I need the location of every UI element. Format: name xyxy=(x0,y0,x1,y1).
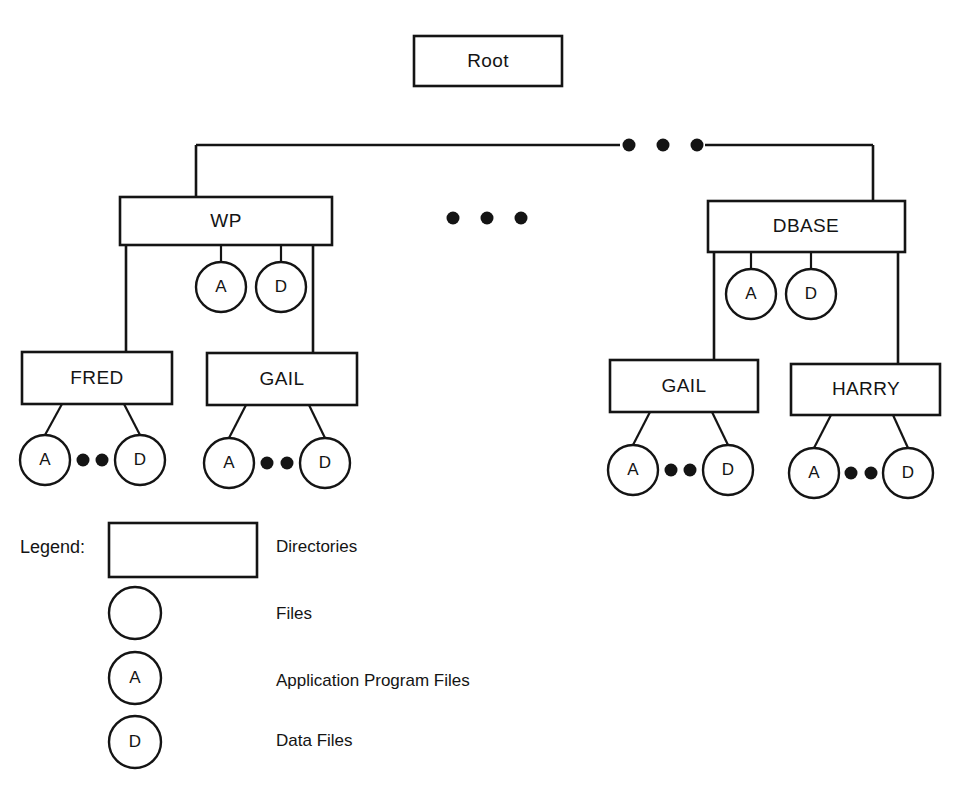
wp-file-a-label: A xyxy=(215,277,227,296)
wp-file-d-label: D xyxy=(275,277,287,296)
gail-dbase-stem-d xyxy=(712,412,728,445)
legend-data-glyph: D xyxy=(129,732,141,751)
gail-wp-ellipsis-dot-1 xyxy=(261,457,274,470)
fred-stem-a xyxy=(45,404,62,435)
wp-file-a[interactable]: A xyxy=(196,262,246,312)
bus-ellipsis-dot-1 xyxy=(623,139,636,152)
harry-file-a-label: A xyxy=(808,463,820,482)
legend-title: Legend: xyxy=(20,537,85,557)
level1-ellipsis-dot-3 xyxy=(515,212,528,225)
gail-wp-file-d[interactable]: D xyxy=(300,438,350,488)
wp-label: WP xyxy=(210,210,241,231)
legend-item-application-files: A Application Program Files xyxy=(109,652,470,704)
fred-file-d[interactable]: D xyxy=(115,435,165,485)
wp-file-d[interactable]: D xyxy=(256,262,306,312)
gail-wp-stem-d xyxy=(309,405,325,438)
gail-dbase-label: GAIL xyxy=(662,375,707,396)
gail-wp-file-a[interactable]: A xyxy=(204,438,254,488)
gail-wp-stem-a xyxy=(229,405,246,438)
fred-ellipsis-dot-1 xyxy=(77,454,90,467)
legend-files-label: Files xyxy=(276,604,312,623)
fred-files-ellipsis xyxy=(77,454,109,467)
node-gail-dbase[interactable]: GAIL xyxy=(610,360,758,412)
node-fred[interactable]: FRED xyxy=(22,352,172,404)
gail-wp-file-stems xyxy=(229,405,325,438)
legend-item-data-files: D Data Files xyxy=(109,716,353,768)
harry-ellipsis-dot-1 xyxy=(845,467,858,480)
node-gail-wp[interactable]: GAIL xyxy=(207,353,357,405)
top-connector-bus xyxy=(196,139,873,202)
fred-label: FRED xyxy=(70,367,123,388)
gail-dbase-file-a-label: A xyxy=(627,460,639,479)
legend-item-files: Files xyxy=(109,587,312,639)
harry-file-d-label: D xyxy=(902,463,914,482)
gail-wp-files-ellipsis xyxy=(261,457,294,470)
legend-directories-label: Directories xyxy=(276,537,357,556)
gail-dbase-file-a[interactable]: A xyxy=(608,445,658,495)
harry-file-stems xyxy=(814,415,908,448)
legend: Legend: Directories Files A Application … xyxy=(20,523,470,768)
node-root[interactable]: Root xyxy=(414,36,562,86)
fred-file-stems xyxy=(45,404,140,435)
dbase-file-d-label: D xyxy=(805,284,817,303)
root-label: Root xyxy=(467,50,509,71)
level1-ellipsis-dot-1 xyxy=(447,212,460,225)
legend-data-label: Data Files xyxy=(276,731,353,750)
fred-file-a-label: A xyxy=(39,450,51,469)
gail-wp-file-a-label: A xyxy=(223,453,235,472)
harry-stem-a xyxy=(814,415,831,448)
legend-directory-swatch xyxy=(109,523,257,577)
fred-file-d-label: D xyxy=(134,450,146,469)
legend-application-label: Application Program Files xyxy=(276,671,470,690)
fred-file-a[interactable]: A xyxy=(20,435,70,485)
gail-dbase-stem-a xyxy=(633,412,650,445)
diagram-canvas: Root WP xyxy=(0,0,961,799)
node-harry[interactable]: HARRY xyxy=(791,364,940,415)
gail-dbase-ellipsis-dot-2 xyxy=(684,464,697,477)
node-dbase[interactable]: DBASE xyxy=(708,201,905,252)
legend-application-glyph: A xyxy=(129,668,141,687)
dbase-file-stems xyxy=(751,252,811,269)
dbase-label: DBASE xyxy=(773,215,839,236)
legend-file-swatch xyxy=(109,587,161,639)
bus-ellipsis-dot-2 xyxy=(657,139,670,152)
gail-dbase-ellipsis-dot-1 xyxy=(665,464,678,477)
harry-file-d[interactable]: D xyxy=(883,448,933,498)
level1-ellipsis-dot-2 xyxy=(481,212,494,225)
bus-ellipsis-dot-3 xyxy=(691,139,704,152)
gail-dbase-file-d[interactable]: D xyxy=(703,445,753,495)
directory-tree-diagram: Root WP xyxy=(0,0,961,799)
gail-wp-label: GAIL xyxy=(260,368,305,389)
fred-stem-d xyxy=(124,404,140,435)
gail-dbase-file-d-label: D xyxy=(722,460,734,479)
gail-wp-file-d-label: D xyxy=(319,453,331,472)
harry-ellipsis-dot-2 xyxy=(865,467,878,480)
gail-dbase-file-stems xyxy=(633,412,728,445)
gail-dbase-files-ellipsis xyxy=(665,464,697,477)
level1-row-ellipsis xyxy=(447,212,528,225)
fred-ellipsis-dot-2 xyxy=(96,454,109,467)
legend-item-directories: Directories xyxy=(109,523,357,577)
wp-file-stems xyxy=(221,245,281,262)
harry-files-ellipsis xyxy=(845,467,878,480)
dbase-file-a[interactable]: A xyxy=(726,269,776,319)
gail-wp-ellipsis-dot-2 xyxy=(281,457,294,470)
harry-label: HARRY xyxy=(832,378,900,399)
dbase-file-d[interactable]: D xyxy=(786,269,836,319)
harry-file-a[interactable]: A xyxy=(789,448,839,498)
dbase-file-a-label: A xyxy=(745,284,757,303)
node-wp[interactable]: WP xyxy=(120,197,332,245)
harry-stem-d xyxy=(893,415,908,448)
